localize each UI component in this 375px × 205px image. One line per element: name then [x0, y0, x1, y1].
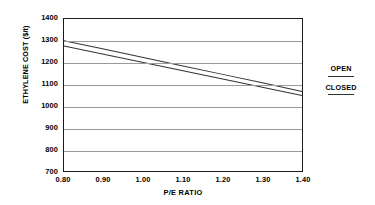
- gridline: [64, 63, 302, 64]
- legend-entry-open[interactable]: OPEN: [312, 64, 370, 77]
- x-tick-label: 1.40: [283, 175, 323, 184]
- legend-entry-closed[interactable]: CLOSED: [312, 83, 370, 96]
- y-tick-label: 1100: [22, 80, 58, 88]
- chart-legend: OPENCLOSED: [312, 64, 370, 101]
- series-line-open: [64, 41, 302, 92]
- y-tick-label: 1400: [22, 14, 58, 22]
- gridline: [64, 107, 302, 108]
- y-tick-label: 900: [22, 124, 58, 132]
- y-tick-label: 1000: [22, 102, 58, 110]
- gridline: [64, 85, 302, 86]
- legend-label: OPEN: [312, 64, 370, 73]
- x-tick-label: 1.00: [123, 175, 163, 184]
- x-tick-label: 1.10: [163, 175, 203, 184]
- gridline: [64, 41, 302, 42]
- x-axis-title: P/E RATIO: [63, 188, 303, 197]
- legend-label: CLOSED: [312, 83, 370, 92]
- ethylene-cost-line-chart: ETHYLENE COST ($/t) 14001300120011001000…: [0, 0, 375, 205]
- x-tick-label: 1.20: [203, 175, 243, 184]
- plot-area: [63, 18, 303, 172]
- legend-line-swatch: [328, 76, 354, 77]
- y-tick-label: 1200: [22, 58, 58, 66]
- series-line-closed: [64, 46, 302, 96]
- y-tick-label: 800: [22, 146, 58, 154]
- y-tick-label: 1300: [22, 36, 58, 44]
- x-axis-tick-labels: 0.800.901.001.101.201.301.40: [0, 175, 375, 187]
- x-tick-label: 0.90: [83, 175, 123, 184]
- gridline: [64, 129, 302, 130]
- x-tick-label: 0.80: [43, 175, 83, 184]
- legend-line-swatch: [328, 94, 354, 95]
- x-tick-label: 1.30: [243, 175, 283, 184]
- gridline: [64, 151, 302, 152]
